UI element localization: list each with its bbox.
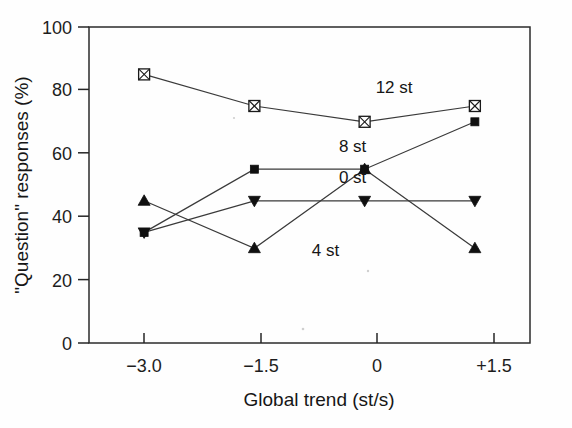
- data-point: [359, 196, 371, 207]
- scan-speck: [367, 270, 369, 272]
- series-line-1: [144, 122, 475, 233]
- series-line-0: [144, 74, 475, 121]
- series-annotation-0: 12 st: [376, 78, 413, 97]
- x-axis-ticks: [144, 333, 494, 343]
- marker-triangle-up: [138, 195, 150, 206]
- figure-panel: 0 20 40 60 80 100 −3.0 −1.5 0 +1.5 Globa…: [0, 0, 572, 428]
- x-tick-label-neg3: −3.0: [126, 356, 162, 376]
- x-axis-labels: −3.0 −1.5 0 +1.5: [126, 356, 512, 376]
- y-tick-label-100: 100: [42, 18, 72, 38]
- y-tick-label-20: 20: [52, 271, 72, 291]
- marker-triangle-down: [359, 196, 371, 207]
- marker-triangle-up: [469, 242, 481, 253]
- data-point: [471, 118, 479, 126]
- plot-frame-rect: [89, 27, 530, 343]
- y-tick-label-60: 60: [52, 144, 72, 164]
- series-0-st: [138, 196, 481, 238]
- series-annotation-2: 0 st: [339, 168, 367, 187]
- scan-speck: [302, 328, 305, 331]
- series-annotation-1: 8 st: [339, 137, 367, 156]
- plot-frame: [89, 27, 530, 343]
- data-point: [250, 165, 258, 173]
- data-point: [469, 196, 481, 207]
- series-layer: [138, 69, 481, 253]
- marker-triangle-down: [469, 196, 481, 207]
- data-point: [469, 101, 480, 112]
- series-12-st: [139, 69, 481, 127]
- x-tick-label-zero: 0: [372, 356, 382, 376]
- data-point: [359, 116, 370, 127]
- series-line-3: [144, 169, 475, 248]
- line-chart: 0 20 40 60 80 100 −3.0 −1.5 0 +1.5 Globa…: [0, 0, 572, 428]
- data-point: [469, 242, 481, 253]
- marker-triangle-up: [248, 242, 260, 253]
- y-tick-label-80: 80: [52, 80, 72, 100]
- x-axis-title: Global trend (st/s): [244, 389, 395, 410]
- data-point: [249, 101, 260, 112]
- scan-speck: [233, 117, 235, 119]
- series-4-st: [138, 163, 481, 253]
- x-tick-label-neg1-5: −1.5: [243, 356, 279, 376]
- x-tick-label-pos1-5: +1.5: [476, 356, 512, 376]
- data-point: [139, 69, 150, 80]
- data-point: [138, 195, 150, 206]
- marker-square-filled: [471, 118, 479, 126]
- series-annotation-3: 4 st: [312, 241, 340, 260]
- y-tick-label-0: 0: [62, 334, 72, 354]
- y-axis-labels: 0 20 40 60 80 100: [42, 18, 72, 354]
- marker-square-filled: [250, 165, 258, 173]
- data-point: [248, 242, 260, 253]
- y-axis-ticks: [78, 27, 89, 343]
- y-axis-title: "Question" responses (%): [11, 76, 32, 293]
- series-line-2: [144, 201, 475, 233]
- y-tick-label-40: 40: [52, 207, 72, 227]
